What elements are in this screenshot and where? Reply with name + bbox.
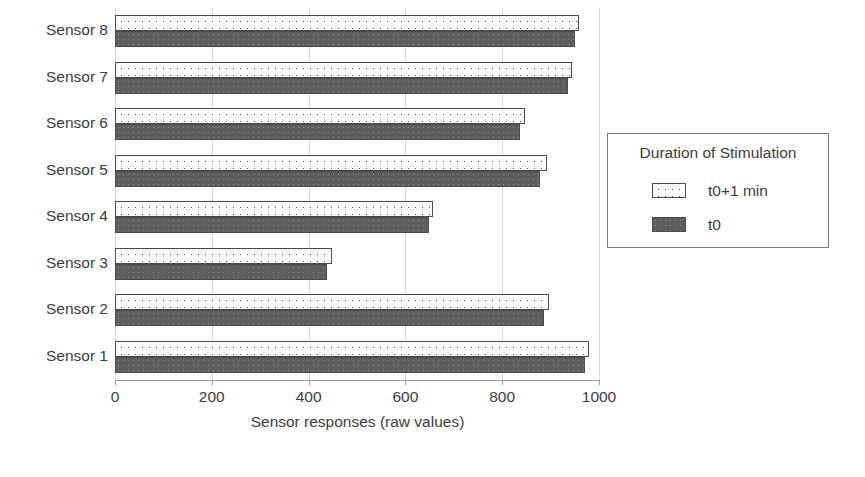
y-category-label: Sensor 2 xyxy=(0,300,108,318)
x-axis-line xyxy=(115,380,600,381)
bar[interactable] xyxy=(115,248,332,264)
y-category-label: Sensor 5 xyxy=(0,161,108,179)
bar[interactable] xyxy=(115,310,544,326)
gray-swatch-icon xyxy=(652,217,686,232)
bar[interactable] xyxy=(115,31,575,47)
y-category-label: Sensor 1 xyxy=(0,347,108,365)
y-category-label: Sensor 7 xyxy=(0,68,108,86)
x-tick-label: 0 xyxy=(111,388,120,406)
x-tick-label: 800 xyxy=(489,388,515,406)
dotted-swatch-icon xyxy=(652,183,686,198)
x-axis-tick xyxy=(502,380,503,385)
bar[interactable] xyxy=(115,124,520,140)
bar[interactable] xyxy=(115,294,549,310)
legend-title: Duration of Stimulation xyxy=(608,144,828,162)
gridline xyxy=(599,8,600,380)
y-category-label: Sensor 6 xyxy=(0,114,108,132)
y-category-label: Sensor 3 xyxy=(0,254,108,272)
bar[interactable] xyxy=(115,155,547,171)
bar[interactable] xyxy=(115,217,429,233)
bar[interactable] xyxy=(115,108,525,124)
x-tick-label: 1000 xyxy=(582,388,616,406)
legend-item-t0-plus-1-min[interactable]: t0+1 min xyxy=(608,180,828,202)
bar[interactable] xyxy=(115,341,589,357)
bar[interactable] xyxy=(115,264,327,280)
x-axis-title: Sensor responses (raw values) xyxy=(115,413,600,431)
bar[interactable] xyxy=(115,62,572,78)
bar-chart: Sensor 1Sensor 2Sensor 3Sensor 4Sensor 5… xyxy=(0,0,865,477)
legend: Duration of Stimulation t0+1 min t0 xyxy=(607,133,829,248)
bar[interactable] xyxy=(115,357,585,373)
x-axis-tick xyxy=(599,380,600,385)
legend-item-label: t0+1 min xyxy=(708,180,768,202)
bar[interactable] xyxy=(115,78,568,94)
bar[interactable] xyxy=(115,15,579,31)
legend-item-t0[interactable]: t0 xyxy=(608,214,828,236)
bar[interactable] xyxy=(115,171,540,187)
y-category-label: Sensor 8 xyxy=(0,21,108,39)
x-tick-label: 600 xyxy=(392,388,418,406)
x-axis-tick xyxy=(212,380,213,385)
x-axis-tick xyxy=(309,380,310,385)
x-tick-label: 400 xyxy=(296,388,322,406)
x-axis-tick xyxy=(115,380,116,385)
legend-item-label: t0 xyxy=(708,214,721,236)
y-category-label: Sensor 4 xyxy=(0,207,108,225)
x-axis-tick xyxy=(405,380,406,385)
bar[interactable] xyxy=(115,201,433,217)
x-tick-label: 200 xyxy=(199,388,225,406)
